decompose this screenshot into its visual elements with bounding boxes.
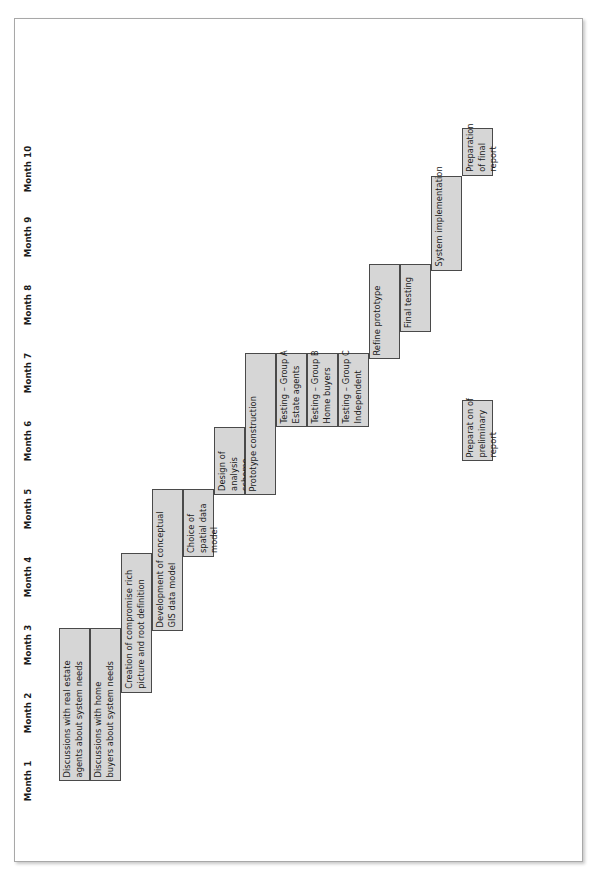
gantt-bar-label: Discussions with real estate agents abou… [61, 632, 88, 777]
gantt-bar-label: Choice of spatial data model [185, 493, 212, 553]
gantt-bar: Testing – Group A Estate agents [276, 353, 307, 428]
gantt-bar: Prototype construction [245, 353, 276, 496]
gantt-bar: Final testing [400, 264, 431, 332]
gantt-bar-label: Preparat on of preliminary report [464, 404, 491, 457]
month-axis-label-1: Month 1 [23, 752, 35, 810]
gantt-bar: Discussions with real estate agents abou… [59, 628, 90, 781]
gantt-bar: System implementation [431, 176, 462, 271]
gantt-bar-label: Prototype construction [247, 357, 274, 492]
month-axis-label-7: Month 7 [23, 344, 35, 402]
chart-frame: Month 1Month 2Month 3Month 4Month 5Month… [14, 18, 583, 862]
gantt-bar: Discussions with home buyers about syste… [90, 628, 121, 781]
gantt-bar-label: Creation of compromise rich picture and … [123, 557, 150, 688]
month-axis-label-5: Month 5 [23, 480, 35, 538]
gantt-bar-label: Preparation of final report [464, 132, 491, 172]
gantt-bar-label: Testing – Group A Estate agents [278, 357, 305, 424]
gantt-bar: Testing – Group C Independent [338, 353, 369, 428]
month-axis-label-2: Month 2 [23, 684, 35, 742]
gantt-plot-area: Month 1Month 2Month 3Month 4Month 5Month… [15, 19, 582, 861]
month-axis-label-6: Month 6 [23, 412, 35, 470]
gantt-bar-label: System implementation [433, 180, 460, 267]
gantt-bar: Development of conceptual GIS data model [152, 489, 183, 632]
gantt-bar: Refine prototype [369, 264, 400, 359]
gantt-bar-label: Design of analysis scheme [216, 431, 243, 491]
gantt-bar: Testing – Group B Home buyers [307, 353, 338, 428]
gantt-bar-label: Development of conceptual GIS data model [154, 493, 181, 628]
gantt-bar-label: Testing – Group C Independent [340, 357, 367, 424]
gantt-bar: Design of analysis scheme [214, 427, 245, 495]
month-axis-label-8: Month 8 [23, 276, 35, 334]
gantt-bar-label: Refine prototype [371, 268, 398, 355]
month-axis-label-3: Month 3 [23, 616, 35, 674]
gantt-bar: Creation of compromise rich picture and … [121, 553, 152, 692]
month-axis-label-10: Month 10 [23, 140, 35, 198]
gantt-bar: Choice of spatial data model [183, 489, 214, 557]
month-axis-label-4: Month 4 [23, 548, 35, 606]
gantt-bar-label: Testing – Group B Home buyers [309, 357, 336, 424]
gantt-bar: Preparat on of preliminary report [462, 400, 493, 461]
month-axis-label-9: Month 9 [23, 208, 35, 266]
gantt-bar-label: Discussions with home buyers about syste… [92, 632, 119, 777]
gantt-bar-label: Final testing [402, 268, 429, 328]
gantt-bar: Preparation of final report [462, 128, 493, 176]
